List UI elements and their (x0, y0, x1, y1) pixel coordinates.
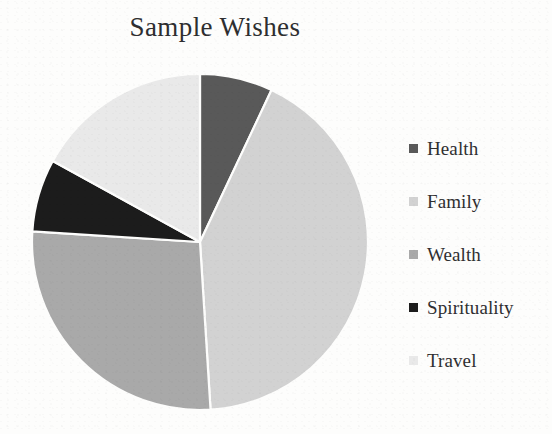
pie-chart-svg (30, 72, 370, 412)
chart-legend: HealthFamilyWealthSpiritualityTravel (409, 122, 552, 387)
legend-label: Wealth (427, 244, 481, 266)
legend-label: Travel (427, 350, 477, 372)
legend-item-spirituality: Spirituality (409, 281, 552, 334)
chart-page: Sample Wishes HealthFamilyWealthSpiritua… (0, 0, 552, 434)
legend-label: Health (427, 138, 478, 160)
legend-item-wealth: Wealth (409, 228, 552, 281)
legend-item-family: Family (409, 175, 552, 228)
pie-slice-wealth (32, 231, 211, 410)
chart-title: Sample Wishes (0, 10, 430, 44)
legend-swatch-icon (409, 197, 418, 206)
legend-label: Family (427, 191, 481, 213)
legend-swatch-icon (409, 303, 418, 312)
legend-swatch-icon (409, 356, 418, 365)
legend-item-travel: Travel (409, 334, 552, 387)
pie-slices (32, 74, 368, 410)
legend-swatch-icon (409, 144, 418, 153)
pie-chart (30, 72, 370, 412)
legend-swatch-icon (409, 250, 418, 259)
legend-item-health: Health (409, 122, 552, 175)
legend-label: Spirituality (427, 297, 514, 319)
